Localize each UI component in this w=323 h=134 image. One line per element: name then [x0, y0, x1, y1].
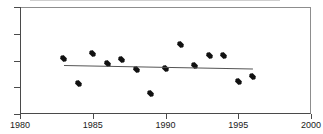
y-tick-mark — [14, 7, 21, 8]
y-tick-mark — [14, 34, 21, 35]
y-tick-mark — [14, 87, 21, 88]
x-tick-label: 1995 — [228, 120, 248, 131]
x-tick-mark — [166, 114, 167, 119]
cropped-edge-artifact — [30, 0, 280, 1]
scatter-chart: 45678 19801985199019952000 — [0, 0, 323, 134]
x-tick-mark — [20, 114, 21, 119]
x-tick-label: 1990 — [155, 120, 175, 131]
x-tick-label: 1980 — [10, 120, 30, 131]
x-tick-label: 1985 — [83, 120, 103, 131]
x-tick-mark — [238, 114, 239, 119]
x-tick-label: 2000 — [301, 120, 321, 131]
x-tick-mark — [93, 114, 94, 119]
x-tick-mark — [311, 114, 312, 119]
y-tick-mark — [14, 61, 21, 62]
